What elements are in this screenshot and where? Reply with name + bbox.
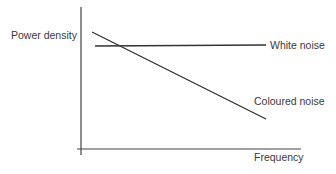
noise-diagram (0, 0, 336, 174)
y-axis-label: Power density (11, 29, 77, 41)
coloured-noise-label: Coloured noise (254, 95, 325, 107)
white-noise-label: White noise (270, 39, 325, 51)
x-axis-label: Frequency (254, 151, 304, 163)
